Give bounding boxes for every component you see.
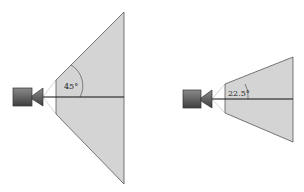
right-camera-icon bbox=[183, 90, 201, 108]
left-guide-bottom bbox=[43, 97, 56, 114]
right-camera-lens-icon bbox=[201, 90, 212, 108]
right-guide-bottom bbox=[212, 99, 225, 113]
left-camera-group: 45° bbox=[13, 12, 124, 184]
left-camera-icon bbox=[13, 88, 32, 106]
left-camera-lens-icon bbox=[32, 88, 43, 106]
left-guide-top bbox=[43, 80, 56, 97]
left-frustum bbox=[56, 12, 124, 184]
right-fov-label: 22.5° bbox=[228, 89, 250, 98]
left-fov-label: 45° bbox=[64, 82, 78, 91]
right-guide-top bbox=[212, 84, 225, 99]
diagram-canvas: 45° 22.5° bbox=[0, 0, 304, 192]
right-camera-group: 22.5° bbox=[183, 57, 293, 142]
